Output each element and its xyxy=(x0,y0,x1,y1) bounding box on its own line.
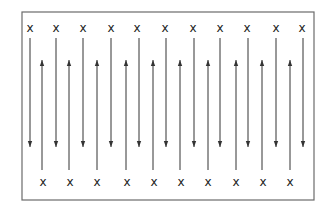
arrowhead-up-icon xyxy=(67,60,71,66)
arrowhead-down-icon xyxy=(218,141,222,147)
x-marker-icon: x xyxy=(66,175,73,189)
arrowhead-up-icon xyxy=(40,60,44,66)
arrowhead-up-icon xyxy=(234,60,238,66)
x-marker-icon: x xyxy=(272,21,279,35)
x-marker-icon: x xyxy=(177,175,184,189)
top-markers: xxxxxxxxxxx xyxy=(26,21,305,35)
x-marker-icon: x xyxy=(133,21,140,35)
bottom-markers: xxxxxxxxxx xyxy=(39,175,293,189)
x-marker-icon: x xyxy=(79,21,86,35)
x-marker-icon: x xyxy=(189,21,196,35)
arrowhead-down-icon xyxy=(246,141,250,147)
x-marker-icon: x xyxy=(286,175,293,189)
x-marker-icon: x xyxy=(93,175,100,189)
arrowhead-down-icon xyxy=(81,141,85,147)
x-marker-icon: x xyxy=(243,21,250,35)
arrowhead-down-icon xyxy=(192,141,196,147)
arrowhead-up-icon xyxy=(124,60,128,66)
arrowhead-up-icon xyxy=(206,60,210,66)
x-marker-icon: x xyxy=(216,21,223,35)
x-marker-icon: x xyxy=(259,175,266,189)
diagram-frame xyxy=(22,12,314,200)
x-marker-icon: x xyxy=(232,175,239,189)
arrowhead-down-icon xyxy=(164,141,168,147)
arrowhead-down-icon xyxy=(137,141,141,147)
x-marker-icon: x xyxy=(150,175,157,189)
arrowhead-down-icon xyxy=(28,141,32,147)
arrowhead-up-icon xyxy=(288,60,292,66)
traverse-pattern-diagram: xxxxxxxxxxx xxxxxxxxxx xyxy=(0,0,325,209)
arrowhead-down-icon xyxy=(109,141,113,147)
x-marker-icon: x xyxy=(204,175,211,189)
arrowhead-down-icon xyxy=(54,141,58,147)
x-marker-icon: x xyxy=(52,21,59,35)
x-marker-icon: x xyxy=(107,21,114,35)
x-marker-icon: x xyxy=(123,175,130,189)
arrowhead-down-icon xyxy=(301,141,305,147)
arrowhead-up-icon xyxy=(95,60,99,66)
x-marker-icon: x xyxy=(26,21,33,35)
arrowhead-up-icon xyxy=(178,60,182,66)
arrowhead-down-icon xyxy=(274,141,278,147)
x-marker-icon: x xyxy=(161,21,168,35)
arrowhead-up-icon xyxy=(260,60,264,66)
x-marker-icon: x xyxy=(298,21,305,35)
x-marker-icon: x xyxy=(39,175,46,189)
arrowhead-up-icon xyxy=(151,60,155,66)
